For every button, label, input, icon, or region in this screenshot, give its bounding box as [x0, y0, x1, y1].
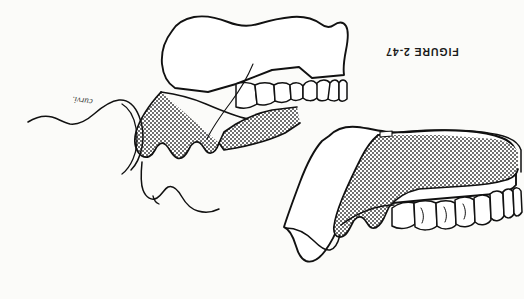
tooth — [474, 195, 491, 225]
tooth — [436, 201, 456, 229]
tooth — [328, 80, 339, 101]
scanned-page: FIGURE 2-47 curvi. — [0, 0, 524, 299]
upper-teeth-row — [236, 80, 347, 108]
lip-chin-profile — [141, 162, 219, 212]
tooth — [392, 202, 415, 228]
tooth — [236, 83, 257, 108]
lower-illustration — [284, 127, 522, 262]
tooth — [503, 189, 514, 218]
figure-artwork — [0, 0, 524, 299]
tooth — [255, 83, 275, 105]
tooth — [290, 83, 303, 101]
tooth — [513, 188, 522, 216]
tooth — [455, 197, 475, 227]
tooth — [490, 191, 504, 221]
tooth — [274, 83, 291, 103]
tooth — [339, 80, 347, 101]
tooth — [414, 201, 437, 230]
lower-incisive-notch — [380, 131, 392, 137]
facial-profile-outline — [28, 100, 143, 170]
figure-caption: FIGURE 2-47 — [383, 46, 461, 58]
